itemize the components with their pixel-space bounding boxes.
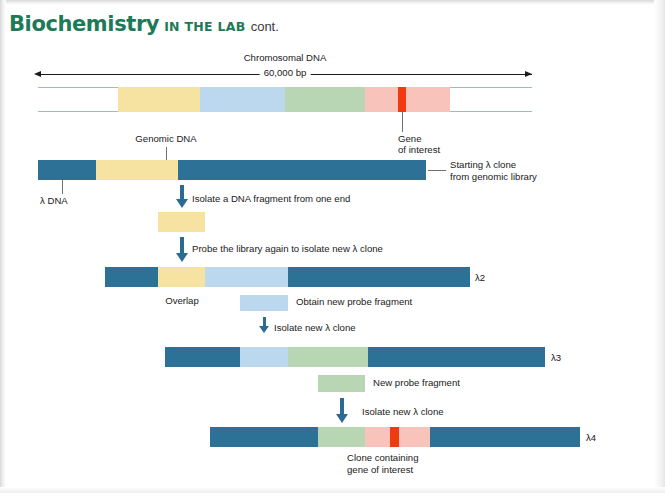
obtain-new-probe-label: Obtain new probe fragment — [296, 296, 412, 308]
clone-starting-bar — [38, 160, 426, 180]
chromosome-title: Chromosomal DNA — [244, 52, 327, 64]
header-continued: cont. — [251, 19, 279, 34]
step-1-label: Isolate a DNA fragment from one end — [192, 193, 350, 205]
clone-lambda-4-segment-region-pink-b — [399, 427, 430, 447]
step-3-label: Isolate new λ clone — [274, 322, 356, 334]
page-edge-right — [654, 0, 665, 493]
clone-lambda-2-bar — [105, 267, 470, 287]
clone-lambda-4-segment-lambda-arm-left — [210, 427, 318, 447]
clone-lambda-3-segment-overlap-blue — [240, 347, 288, 367]
page-edge-left — [0, 0, 6, 493]
clone-starting-segment-lambda-arm-left — [38, 160, 96, 180]
clone-lambda-4-segment-overlap-green — [318, 427, 365, 447]
chromosome-segment-probe-blue — [200, 87, 285, 112]
figure-header: BiochemistryIN THE LABcont. — [9, 12, 279, 36]
chromosome-segment-probe-green — [285, 87, 365, 112]
clone-lambda-2-segment-lambda-arm-left — [105, 267, 158, 287]
gene-of-interest-label-line1: Gene — [398, 133, 421, 145]
chromosome-segment-gene-of-interest — [398, 87, 406, 112]
overlap-label: Overlap — [165, 295, 199, 307]
header-subtitle: IN THE LAB — [164, 19, 246, 34]
clone-lambda-2-segment-overlap-yellow — [158, 267, 205, 287]
header-title: Biochemistry — [9, 12, 159, 36]
clone-containing-label-line1: Clone containing — [347, 452, 418, 464]
scale-arrow-right-head — [525, 71, 532, 77]
clone-lambda-3-label: λ3 — [551, 352, 561, 364]
step-4-label: Isolate new λ clone — [362, 406, 444, 418]
step-3-arrow-head — [259, 326, 269, 333]
chromosome-length-label: 60,000 bp — [260, 67, 311, 79]
isolated-yellow-fragment — [158, 212, 205, 232]
starting-clone-caption-leader — [428, 170, 446, 171]
chromosome-segment-region-pink-a — [365, 87, 398, 112]
clone-lambda-2-label: λ2 — [475, 272, 485, 284]
step-1-arrow-head — [176, 199, 188, 208]
figure-page: BiochemistryIN THE LABcont. Chromosomal … — [0, 0, 665, 493]
clone-lambda-3-segment-new-probe-green — [288, 347, 368, 367]
lambda-dna-leader — [62, 180, 63, 194]
clone-lambda-4-segment-lambda-arm-right — [430, 427, 580, 447]
starting-clone-caption-line2: from genomic library — [450, 171, 537, 183]
clone-containing-label-line2: gene of interest — [347, 464, 413, 476]
clone-starting-segment-lambda-arm-right — [178, 160, 426, 180]
lambda-dna-label: λ DNA — [40, 195, 68, 207]
clone-lambda-2-segment-lambda-arm-right — [288, 267, 470, 287]
new-probe-fragment-label: New probe fragment — [373, 377, 460, 389]
step-4-arrow-head — [336, 414, 348, 423]
new-probe-green-fragment — [318, 375, 365, 392]
gene-of-interest-label-line2: of interest — [398, 144, 440, 156]
clone-lambda-2-segment-new-probe-blue — [205, 267, 288, 287]
scale-arrow-left-head — [34, 71, 41, 77]
chromosome-segment-genomic-yellow — [118, 87, 200, 112]
clone-lambda-4-segment-gene-of-interest — [390, 427, 399, 447]
step-2-arrow-head — [176, 253, 188, 262]
step-2-label: Probe the library again to isolate new λ… — [192, 243, 383, 255]
clone-lambda-4-segment-region-pink-a — [365, 427, 390, 447]
new-probe-blue-fragment — [240, 295, 288, 311]
clone-lambda-4-bar — [210, 427, 580, 447]
clone-lambda-3-segment-lambda-arm-right — [368, 347, 545, 367]
gene-of-interest-leader — [402, 112, 403, 132]
genomic-dna-leader — [166, 147, 167, 161]
clone-starting-segment-genomic-insert — [96, 160, 178, 180]
clone-lambda-4-label: λ4 — [586, 432, 596, 444]
genomic-dna-label: Genomic DNA — [135, 133, 196, 145]
page-edge-bottom — [0, 487, 665, 493]
page-edge-top — [0, 0, 665, 5]
clone-lambda-3-bar — [165, 347, 545, 367]
chromosome-segment-region-pink-b — [406, 87, 450, 112]
clone-lambda-3-segment-lambda-arm-left — [165, 347, 240, 367]
chromosome-bar — [0, 87, 665, 112]
starting-clone-caption-line1: Starting λ clone — [450, 159, 516, 171]
